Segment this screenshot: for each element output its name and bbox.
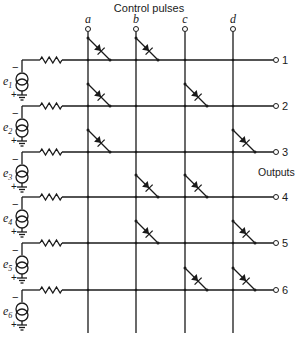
junction bbox=[232, 289, 235, 292]
ground-icon bbox=[17, 141, 27, 146]
polarity-minus: − bbox=[12, 153, 18, 165]
polarity-minus: − bbox=[12, 107, 18, 119]
column-label: b bbox=[133, 12, 139, 26]
row-5: 5−+e5 bbox=[3, 220, 288, 284]
control-terminal-a bbox=[86, 27, 91, 32]
current-source-icon bbox=[16, 210, 28, 228]
junction bbox=[135, 151, 138, 154]
junction bbox=[135, 59, 138, 62]
source-label: e1 bbox=[3, 74, 12, 90]
diode-icon bbox=[232, 129, 257, 154]
current-source-icon bbox=[16, 119, 28, 137]
source-label: e4 bbox=[3, 211, 12, 227]
junction bbox=[87, 289, 90, 292]
control-terminal-d bbox=[231, 27, 236, 32]
column-label: a bbox=[85, 12, 91, 26]
ground-icon bbox=[17, 95, 27, 100]
diode-icon bbox=[87, 83, 112, 108]
junction bbox=[232, 196, 235, 199]
resistor-icon bbox=[40, 240, 62, 246]
resistor-icon bbox=[40, 194, 62, 200]
diode-icon bbox=[184, 267, 209, 292]
output-terminal bbox=[274, 195, 279, 200]
output-terminal bbox=[274, 104, 279, 109]
output-terminal bbox=[274, 288, 279, 293]
output-terminal bbox=[274, 241, 279, 246]
current-source-icon bbox=[16, 256, 28, 274]
junction bbox=[184, 59, 187, 62]
junction bbox=[184, 196, 187, 199]
junction bbox=[87, 242, 90, 245]
junction bbox=[232, 151, 235, 154]
ground-icon bbox=[17, 278, 27, 283]
junction bbox=[87, 105, 90, 108]
polarity-minus: − bbox=[12, 244, 18, 256]
polarity-plus: + bbox=[11, 135, 17, 146]
current-source-icon bbox=[16, 165, 28, 183]
control-terminal-c bbox=[183, 27, 188, 32]
output-label: 2 bbox=[282, 100, 288, 112]
polarity-minus: − bbox=[12, 291, 18, 303]
source-label: e3 bbox=[3, 166, 12, 182]
diode-icon bbox=[135, 174, 160, 199]
junction bbox=[135, 196, 138, 199]
junction bbox=[184, 289, 187, 292]
junction bbox=[135, 242, 138, 245]
diode-icon bbox=[135, 37, 160, 62]
diode-icon bbox=[232, 220, 257, 245]
output-terminal bbox=[274, 150, 279, 155]
polarity-plus: + bbox=[11, 226, 17, 237]
junction bbox=[87, 59, 90, 62]
junction bbox=[87, 151, 90, 154]
resistor-icon bbox=[40, 287, 62, 293]
diode-icon bbox=[135, 220, 160, 245]
junction bbox=[184, 105, 187, 108]
polarity-plus: + bbox=[11, 89, 17, 100]
ground-icon bbox=[17, 232, 27, 237]
output-label: 1 bbox=[282, 54, 288, 66]
row-1: 1−+e1 bbox=[3, 37, 288, 101]
row-3: 3−+e3 bbox=[3, 129, 288, 193]
ground-icon bbox=[17, 187, 27, 192]
row-2: 2−+e2 bbox=[3, 83, 288, 147]
row-6: 6−+e6 bbox=[3, 267, 288, 331]
control-terminal-b bbox=[134, 27, 139, 32]
column-label: d bbox=[230, 12, 237, 26]
column-label: c bbox=[182, 12, 188, 26]
source-label: e6 bbox=[3, 304, 12, 320]
output-label: 4 bbox=[282, 191, 288, 203]
polarity-minus: − bbox=[12, 198, 18, 210]
diode-icon bbox=[87, 37, 112, 62]
output-label: 5 bbox=[282, 237, 288, 249]
diode-icon bbox=[87, 129, 112, 154]
diode-icon bbox=[184, 174, 209, 199]
junction bbox=[232, 105, 235, 108]
polarity-plus: + bbox=[11, 181, 17, 192]
output-label: 3 bbox=[282, 146, 288, 158]
junction bbox=[135, 289, 138, 292]
source-label: e5 bbox=[3, 257, 12, 273]
diode-icon bbox=[184, 83, 209, 108]
junction bbox=[232, 242, 235, 245]
junction bbox=[184, 242, 187, 245]
source-label: e2 bbox=[3, 120, 12, 136]
junction bbox=[184, 151, 187, 154]
polarity-plus: + bbox=[11, 319, 17, 330]
ground-icon bbox=[17, 325, 27, 330]
current-source-icon bbox=[16, 303, 28, 321]
polarity-plus: + bbox=[11, 272, 17, 283]
resistor-icon bbox=[40, 57, 62, 63]
resistor-icon bbox=[40, 103, 62, 109]
diode-icon bbox=[232, 267, 257, 292]
polarity-minus: − bbox=[12, 61, 18, 73]
resistor-icon bbox=[40, 149, 62, 155]
junction bbox=[87, 196, 90, 199]
current-source-icon bbox=[16, 73, 28, 91]
junction bbox=[232, 59, 235, 62]
row-4: 4−+e4 bbox=[3, 174, 288, 238]
output-terminal bbox=[274, 58, 279, 63]
junction bbox=[135, 105, 138, 108]
diode-matrix-circuit: abcd1−+e12−+e23−+e34−+e45−+e56−+e6 bbox=[0, 0, 298, 338]
output-label: 6 bbox=[282, 284, 288, 296]
